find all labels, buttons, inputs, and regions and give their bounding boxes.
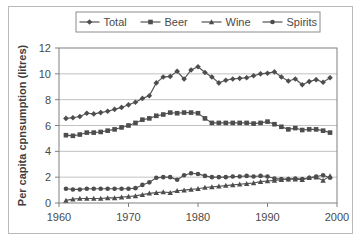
point-spirits-1979 xyxy=(189,171,194,176)
point-beer-1985 xyxy=(230,121,235,126)
point-total-1984 xyxy=(223,77,229,83)
point-total-1966 xyxy=(98,110,104,116)
point-spirits-1990 xyxy=(265,174,270,179)
point-spirits-1997 xyxy=(314,174,319,179)
point-total-1993 xyxy=(286,78,292,84)
point-total-1997 xyxy=(313,77,319,83)
point-total-1985 xyxy=(230,76,236,82)
point-beer-1975 xyxy=(161,112,166,117)
y-tick-label-4: 4 xyxy=(45,145,51,157)
point-beer-1992 xyxy=(279,124,284,129)
point-spirits-1996 xyxy=(307,176,312,181)
point-beer-1983 xyxy=(217,121,222,126)
point-beer-1980 xyxy=(196,111,201,116)
point-beer-1995 xyxy=(300,128,305,133)
point-spirits-1962 xyxy=(71,187,76,192)
point-beer-1994 xyxy=(293,126,298,131)
legend-label-beer: Beer xyxy=(165,16,189,28)
point-total-1962 xyxy=(70,115,76,121)
point-beer-1974 xyxy=(154,114,159,119)
point-spirits-1975 xyxy=(161,175,166,180)
point-total-1986 xyxy=(237,76,243,82)
point-spirits-1966 xyxy=(98,186,103,191)
point-spirits-1980 xyxy=(196,172,201,177)
point-total-1973 xyxy=(147,93,153,99)
point-beer-1972 xyxy=(140,117,145,122)
point-spirits-1967 xyxy=(105,186,110,191)
point-beer-1999 xyxy=(328,130,333,135)
point-total-1961 xyxy=(63,116,69,122)
point-beer-1971 xyxy=(133,121,138,126)
point-spirits-1985 xyxy=(230,174,235,179)
point-total-1968 xyxy=(112,107,118,113)
point-spirits-1968 xyxy=(112,186,117,191)
grid-lines xyxy=(59,74,337,177)
point-beer-1962 xyxy=(71,134,76,139)
point-spirits-1969 xyxy=(119,186,124,191)
point-beer-1968 xyxy=(112,127,117,132)
point-total-1964 xyxy=(84,110,90,116)
point-beer-1969 xyxy=(119,125,124,130)
x-tick-label-1970: 1970 xyxy=(116,211,140,223)
point-spirits-1977 xyxy=(175,177,180,182)
point-beer-1987 xyxy=(244,121,249,126)
point-spirits-1971 xyxy=(133,186,138,191)
point-beer-1973 xyxy=(147,116,152,121)
point-beer-1977 xyxy=(175,111,180,116)
legend-marker-circle-icon xyxy=(270,20,275,25)
x-tick-label-1980: 1980 xyxy=(186,211,210,223)
point-beer-1978 xyxy=(182,110,187,115)
point-spirits-1987 xyxy=(244,174,249,179)
point-spirits-1974 xyxy=(154,176,159,181)
series-beer xyxy=(64,110,333,138)
point-total-1967 xyxy=(105,108,111,114)
point-beer-1986 xyxy=(237,121,242,126)
line-chart: 024681012 19601970198019902000 Per capit… xyxy=(0,0,363,250)
point-beer-1963 xyxy=(78,132,83,137)
point-total-1990 xyxy=(265,70,271,76)
point-spirits-1970 xyxy=(126,186,131,191)
point-spirits-1999 xyxy=(328,176,333,181)
legend-label-spirits: Spirits xyxy=(287,16,318,28)
x-tick-label-1990: 1990 xyxy=(255,211,279,223)
point-spirits-1984 xyxy=(224,175,229,180)
point-beer-1993 xyxy=(286,127,291,132)
point-total-1972 xyxy=(140,96,146,102)
point-beer-1976 xyxy=(168,110,173,115)
point-spirits-1963 xyxy=(78,187,83,192)
point-total-1998 xyxy=(320,79,326,85)
y-tick-label-8: 8 xyxy=(45,94,51,106)
point-spirits-1986 xyxy=(237,174,242,179)
y-tick-label-6: 6 xyxy=(45,120,51,132)
legend-label-wine: Wine xyxy=(226,16,251,28)
point-spirits-1993 xyxy=(286,177,291,182)
point-spirits-1988 xyxy=(251,174,256,179)
point-beer-1970 xyxy=(126,123,131,128)
point-beer-1988 xyxy=(251,121,256,126)
point-beer-1981 xyxy=(203,116,208,121)
point-beer-1979 xyxy=(189,110,194,115)
point-total-1969 xyxy=(119,105,125,111)
point-total-1963 xyxy=(77,114,83,120)
y-tick-label-10: 10 xyxy=(39,68,51,80)
point-spirits-1981 xyxy=(203,174,208,179)
point-spirits-1991 xyxy=(272,176,277,181)
point-spirits-1992 xyxy=(279,177,284,182)
point-spirits-1976 xyxy=(168,175,173,180)
y-tick-label-0: 0 xyxy=(45,197,51,209)
x-tick-label-2000: 2000 xyxy=(325,211,349,223)
point-spirits-1982 xyxy=(210,175,215,180)
point-spirits-1961 xyxy=(64,186,69,191)
point-beer-1996 xyxy=(307,127,312,132)
point-total-1996 xyxy=(306,79,312,85)
point-beer-1984 xyxy=(224,121,229,126)
point-spirits-1965 xyxy=(91,186,96,191)
y-axis-label: Per capita cpnsumption (litres) xyxy=(16,44,28,206)
point-beer-1982 xyxy=(210,121,215,126)
point-beer-1961 xyxy=(64,133,69,138)
point-total-1965 xyxy=(91,111,97,117)
point-beer-1990 xyxy=(265,119,270,124)
legend-marker-square-icon xyxy=(148,20,153,25)
data-series-group xyxy=(63,64,333,203)
point-total-1989 xyxy=(258,71,264,77)
